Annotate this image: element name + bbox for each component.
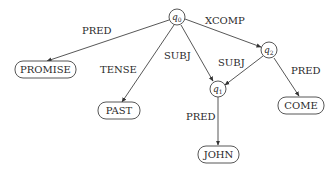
node-q1: q1: [210, 81, 226, 97]
edge-label-tense: TENSE: [100, 64, 137, 75]
node-john: JOHN: [198, 146, 239, 163]
node-q2: q2: [261, 42, 277, 58]
node-past: PAST: [98, 102, 140, 119]
svg-text:PAST: PAST: [106, 105, 133, 116]
node-q0: q0: [169, 9, 185, 25]
svg-text:JOHN: JOHN: [203, 149, 234, 160]
edge-q2-come: [274, 58, 299, 96]
edge-label-subj-q2: SUBJ: [218, 57, 245, 68]
edge-label-subj-q0: SUBJ: [164, 50, 191, 61]
node-promise: PROMISE: [15, 61, 76, 78]
svg-text:COME: COME: [284, 100, 317, 111]
edge-label-pred-promise: PRED: [82, 25, 112, 36]
node-come: COME: [278, 97, 324, 114]
graph-diagram: PRED TENSE SUBJ XCOMP SUBJ PRED PRED q0 …: [0, 0, 335, 172]
edge-label-pred-john: PRED: [186, 111, 216, 122]
svg-text:PROMISE: PROMISE: [20, 64, 71, 75]
edge-label-pred-come: PRED: [291, 65, 321, 76]
edge-label-xcomp: XCOMP: [205, 15, 245, 26]
